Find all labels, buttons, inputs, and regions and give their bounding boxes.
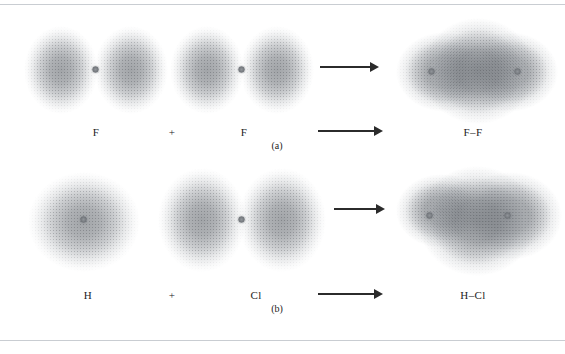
arrow-shaft [320, 66, 372, 68]
hcl-nucleus-h [426, 212, 433, 219]
h-nucleus [80, 216, 87, 223]
f1-lobe-right [94, 26, 168, 114]
hcl-nucleus-cl [504, 212, 511, 219]
caption-panel-a: (a) [271, 140, 282, 151]
label-f-reactant-2: F [241, 126, 248, 138]
cl-lobe-left [158, 168, 246, 272]
label-f-reactant-1: F [93, 126, 100, 138]
label-h-reactant: H [84, 289, 92, 301]
bottom-divider-rule [0, 340, 565, 341]
arrow-shaft [318, 293, 376, 295]
label-cl-reactant: Cl [250, 289, 261, 301]
f1-nucleus [92, 66, 99, 73]
ff-lobe-left [396, 32, 494, 112]
label-plus-b: + [169, 289, 176, 301]
h-sphere [28, 172, 140, 272]
arrow-head [376, 204, 385, 214]
reaction-arrow-b-upper [334, 204, 386, 214]
f2-lobe-left [170, 26, 244, 114]
f2-nucleus [238, 66, 245, 73]
arrow-shaft [318, 130, 376, 132]
label-hcl-product: H–Cl [460, 289, 485, 301]
label-ff-product: F–F [464, 126, 483, 138]
hcl-lobe-right [458, 172, 562, 260]
top-divider-rule [0, 4, 565, 5]
caption-panel-b: (b) [271, 303, 283, 314]
arrow-head [374, 289, 383, 299]
cloud-f-atom-2 [168, 20, 318, 120]
f1-lobe-left [24, 26, 98, 114]
label-plus-a: + [169, 126, 176, 138]
ff-lobe-right [460, 32, 558, 112]
figure-canvas: F + F F–F (a) H + Cl H–Cl (b) [0, 0, 565, 354]
cloud-cl-atom [158, 164, 326, 280]
reaction-arrow-a-upper [320, 62, 380, 72]
arrow-shaft [334, 208, 378, 210]
f2-lobe-right [240, 26, 314, 114]
hcl-lobe-left [396, 174, 488, 248]
arrow-head [374, 126, 383, 136]
ff-nucleus-left [428, 68, 435, 75]
cloud-f2-molecule [396, 18, 560, 124]
cloud-f-atom-1 [22, 20, 172, 120]
reaction-arrow-a-lower [318, 126, 384, 136]
ff-lobe-center [422, 18, 534, 124]
hcl-lobe-center [418, 166, 536, 276]
reaction-arrow-b-lower [318, 289, 384, 299]
cloud-hcl-molecule [396, 166, 564, 276]
ff-nucleus-right [514, 68, 521, 75]
arrow-head [370, 62, 379, 72]
cloud-h-atom [28, 172, 142, 272]
cl-lobe-right [238, 168, 326, 272]
cl-nucleus [238, 216, 245, 223]
